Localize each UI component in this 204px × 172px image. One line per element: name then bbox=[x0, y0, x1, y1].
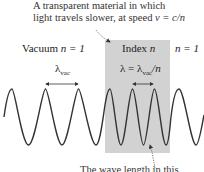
light-wave bbox=[4, 89, 204, 145]
caption-pointer-arrow bbox=[96, 30, 110, 42]
bottom-pointer-arrow bbox=[150, 145, 155, 168]
wave-diagram bbox=[0, 0, 204, 172]
